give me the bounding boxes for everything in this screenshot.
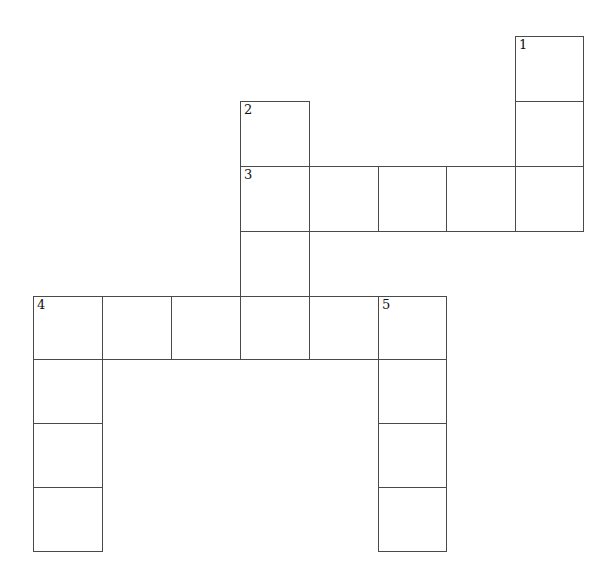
crossword-cell[interactable] — [33, 423, 103, 488]
crossword-cell[interactable] — [309, 296, 379, 360]
crossword-cell[interactable] — [33, 359, 103, 424]
crossword-cell[interactable]: 5 — [378, 296, 447, 360]
crossword-cell[interactable] — [240, 296, 310, 360]
crossword-cell[interactable]: 4 — [33, 296, 103, 360]
crossword-cell[interactable] — [102, 296, 172, 360]
crossword-cell[interactable] — [240, 231, 310, 297]
crossword-cell[interactable] — [378, 487, 447, 552]
clue-number: 5 — [382, 298, 390, 312]
crossword-cell[interactable] — [171, 296, 241, 360]
crossword-cell[interactable] — [446, 166, 516, 232]
crossword-cell[interactable] — [378, 423, 447, 488]
crossword-cell[interactable] — [33, 487, 103, 552]
crossword-cell[interactable]: 2 — [240, 101, 310, 167]
crossword-grid: 12345 — [0, 0, 612, 583]
clue-number: 1 — [519, 38, 527, 52]
crossword-cell[interactable] — [378, 359, 447, 424]
crossword-cell[interactable] — [515, 101, 584, 167]
clue-number: 4 — [37, 298, 45, 312]
crossword-cell[interactable] — [515, 166, 584, 232]
crossword-cell[interactable] — [378, 166, 447, 232]
clue-number: 2 — [244, 103, 252, 117]
clue-number: 3 — [244, 168, 252, 182]
crossword-cell[interactable]: 3 — [240, 166, 310, 232]
crossword-cell[interactable]: 1 — [515, 36, 584, 102]
crossword-cell[interactable] — [309, 166, 379, 232]
